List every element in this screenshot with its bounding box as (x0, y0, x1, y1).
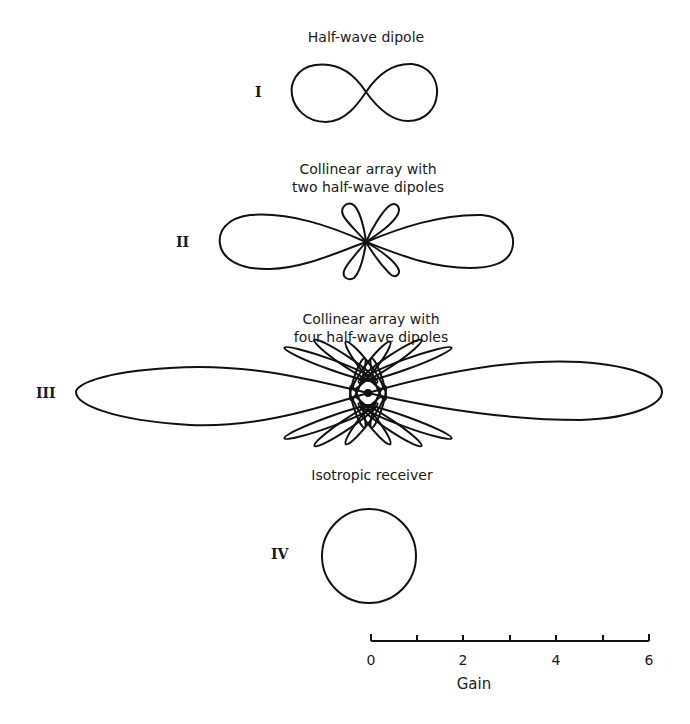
tick-label-4: 4 (552, 652, 561, 668)
tick-label-6: 6 (645, 652, 654, 668)
pattern-iv-isotropic (322, 509, 416, 603)
tick-label-2: 2 (459, 652, 468, 668)
radiation-patterns-canvas (0, 0, 690, 724)
tick-label-0: 0 (367, 652, 376, 668)
pattern-iii-four-dipoles (76, 336, 662, 450)
pattern-i-dipole (292, 64, 437, 122)
gain-axis-title: Gain (457, 675, 492, 693)
pattern-ii-two-dipoles (220, 204, 513, 280)
gain-scale-bar (371, 634, 649, 641)
